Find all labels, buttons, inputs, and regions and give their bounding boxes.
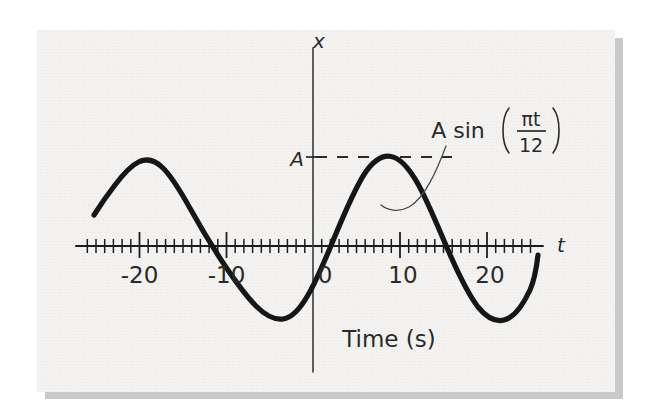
paper-shadow-right bbox=[614, 38, 623, 398]
paper-sheet bbox=[37, 30, 615, 392]
figure-page: x t A -20 -10 0 10 20 Time (s) A sin πt … bbox=[0, 0, 647, 418]
paper-shadow-bottom bbox=[45, 391, 623, 399]
